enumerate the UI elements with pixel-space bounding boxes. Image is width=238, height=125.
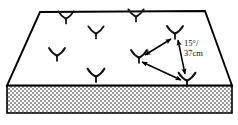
distance-label: 37cm [184, 48, 203, 58]
planting-bed-front-edge [7, 86, 232, 114]
front-face-shape [7, 86, 232, 114]
angle-label: 15°/ [184, 38, 199, 48]
figure-canvas: 15°/ 37cm [0, 0, 238, 125]
planting-plot-diagram: 15°/ 37cm [0, 0, 238, 125]
